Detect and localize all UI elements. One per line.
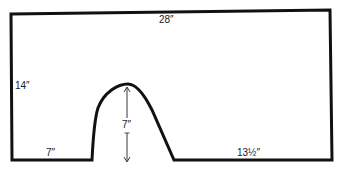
- bottom-right-width-label: 13½″: [237, 148, 260, 158]
- left-height-label: 14″: [15, 81, 30, 91]
- bottom-left-width-label: 7″: [46, 148, 55, 158]
- outline-path: [11, 10, 332, 160]
- pattern-outline: [0, 0, 337, 169]
- arch-height-label: 7″: [122, 119, 131, 131]
- pattern-diagram: 28″ 14″ 7″ 7″ 13½″: [0, 0, 337, 169]
- top-width-label: 28″: [159, 15, 174, 25]
